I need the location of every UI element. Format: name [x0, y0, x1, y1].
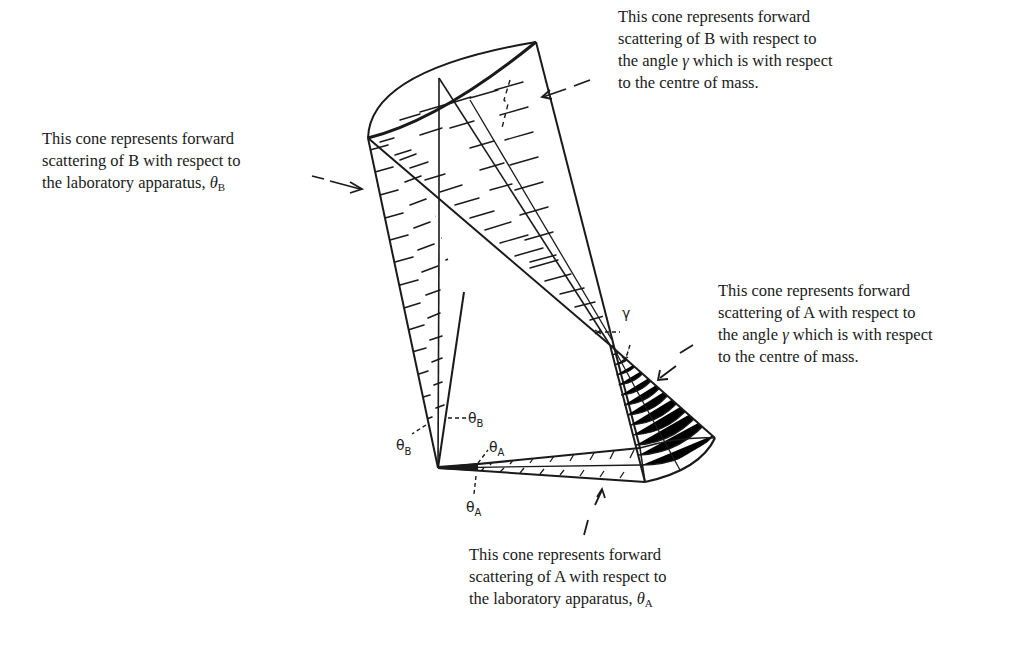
theta-a-top-label: θA — [489, 439, 505, 458]
label-line: This cone represents forward — [469, 544, 667, 566]
label-a-lab-cone: This cone represents forward scattering … — [469, 544, 667, 614]
label-line: scattering of A with respect to — [469, 566, 667, 588]
label-line: scattering of B with respect to — [42, 150, 240, 172]
label-line: This cone represents forward — [718, 280, 933, 302]
label-text: which is with respect — [789, 325, 933, 344]
label-line: the laboratory apparatus, θA — [469, 588, 667, 614]
arrow-a-lab — [584, 489, 605, 535]
theta-a-bottom-label: θA — [466, 499, 482, 518]
label-line: the laboratory apparatus, θB — [42, 172, 240, 198]
theta-b-right-label: θB — [468, 410, 484, 429]
label-text: the laboratory apparatus, — [469, 589, 637, 608]
b-lab-cone — [368, 78, 464, 468]
label-text: the angle — [718, 325, 782, 344]
arrow-a-cm — [658, 345, 693, 380]
label-text: which is with respect — [689, 51, 833, 70]
label-line: This cone represents forward — [42, 128, 240, 150]
theta-symbol: θ — [637, 589, 645, 608]
a-lab-cone — [438, 448, 645, 482]
theta-b-left-label: θB — [396, 437, 412, 457]
gamma-marker-label: γ — [622, 305, 630, 321]
theta-subscript: A — [645, 597, 653, 609]
label-line: the angle γ which is with respect — [618, 50, 833, 72]
label-line: scattering of A with respect to — [718, 302, 933, 324]
scattering-cones-diagram: γ θB θB θA θA — [0, 0, 1018, 654]
label-a-cm-cone: This cone represents forward scattering … — [718, 280, 933, 368]
label-line: to the centre of mass. — [718, 346, 933, 368]
theta-subscript: B — [218, 181, 225, 193]
label-b-cm-cone: This cone represents forward scattering … — [618, 6, 833, 94]
label-line: This cone represents forward — [618, 6, 833, 28]
a-cm-cone — [610, 345, 715, 482]
arrow-b-lab — [312, 176, 362, 193]
label-line: scattering of B with respect to — [618, 28, 833, 50]
label-line: to the centre of mass. — [618, 72, 833, 94]
label-b-lab-cone: This cone represents forward scattering … — [42, 128, 240, 198]
label-text: the laboratory apparatus, — [42, 173, 210, 192]
label-line: the angle γ which is with respect — [718, 324, 933, 346]
b-cm-cone — [368, 42, 640, 448]
theta-symbol: θ — [210, 173, 218, 192]
label-text: the angle — [618, 51, 682, 70]
